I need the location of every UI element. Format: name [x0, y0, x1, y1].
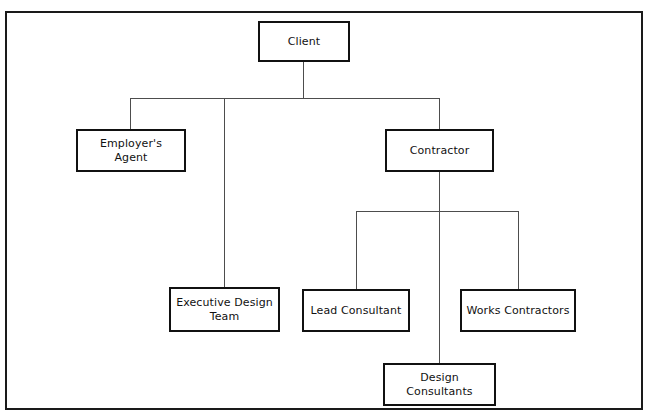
connector-client-to-contractor [439, 98, 440, 129]
connector-client-stem [303, 62, 304, 98]
node-lead-consultant-label: Lead Consultant [307, 304, 406, 318]
node-design-consultants[interactable]: Design Consultants [383, 363, 496, 406]
connector-contractor-bus [356, 211, 519, 212]
node-employers-agent-label: Employer's Agent [78, 137, 184, 165]
node-contractor[interactable]: Contractor [385, 129, 494, 172]
connector-contractor-to-design-consultants [439, 172, 440, 363]
node-employers-agent[interactable]: Employer's Agent [76, 129, 186, 172]
page-frame: Client Employer's Agent Contractor Execu… [5, 11, 643, 410]
diagram-canvas: Client Employer's Agent Contractor Execu… [0, 0, 649, 417]
node-contractor-label: Contractor [406, 144, 474, 158]
connector-contractor-to-works-contractors [518, 211, 519, 289]
node-works-contractors-label: Works Contractors [462, 304, 573, 318]
connector-client-to-employers-agent [130, 98, 131, 129]
connector-client-to-executive-design [224, 98, 225, 287]
node-design-consultants-label: Design Consultants [385, 371, 494, 399]
node-client[interactable]: Client [258, 21, 350, 62]
node-lead-consultant[interactable]: Lead Consultant [302, 289, 410, 332]
node-works-contractors[interactable]: Works Contractors [460, 289, 576, 332]
connector-client-bus [130, 98, 440, 99]
node-executive-design-team[interactable]: Executive Design Team [169, 287, 280, 332]
node-client-label: Client [284, 35, 324, 49]
connector-contractor-to-lead-consultant [356, 211, 357, 289]
node-executive-design-team-label: Executive Design Team [172, 296, 277, 324]
